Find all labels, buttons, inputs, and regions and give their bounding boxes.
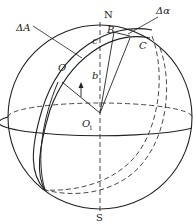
label-south: S (96, 212, 103, 223)
great-circle-outer-back (45, 36, 159, 190)
great-circle-inner-front (39, 37, 150, 190)
label-b: b (92, 70, 98, 81)
segment-B-C (113, 32, 130, 36)
radius-O1-C (100, 38, 130, 113)
label-C: C (139, 40, 147, 51)
leader-delta-A (33, 26, 82, 58)
great-circle-outer-front (33, 29, 152, 190)
label-c: c (92, 35, 98, 46)
label-delta-alpha: Δα (155, 5, 170, 16)
label-O1-subscript: 1 (89, 124, 93, 131)
radius-O1-B (100, 32, 114, 113)
label-O: O (58, 62, 66, 73)
celestial-sphere-diagram: N S ΔA Δα O O 1 B C b c (0, 0, 193, 224)
label-north: N (104, 9, 113, 20)
label-delta-A: ΔA (15, 22, 30, 33)
arrow-head-icon (79, 82, 84, 88)
label-B: B (106, 24, 114, 35)
leader-delta-alpha (128, 17, 158, 34)
